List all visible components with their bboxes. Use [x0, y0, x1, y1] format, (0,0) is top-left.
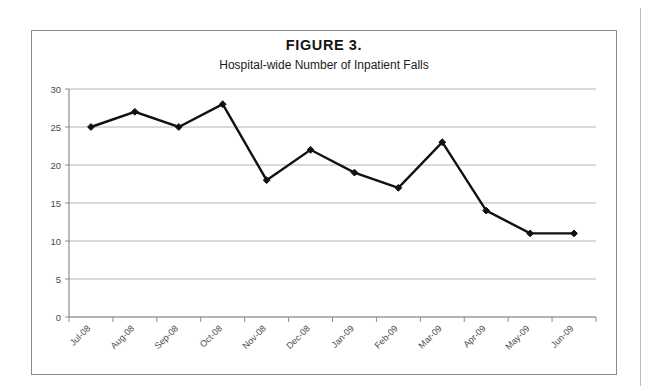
x-axis — [69, 317, 596, 322]
x-tick-label: Aug-08 — [109, 323, 137, 351]
y-axis: 051015202530 — [50, 84, 69, 323]
figure-container: FIGURE 3. Hospital-wide Number of Inpati… — [31, 30, 617, 375]
x-tick-label: Jun-09 — [549, 323, 576, 350]
series-line — [91, 104, 574, 233]
y-tick-label: 15 — [50, 198, 61, 209]
x-tick-label: May-09 — [503, 323, 531, 351]
x-tick-labels: Jul-08Aug-08Sep-08Oct-08Nov-08Dec-08Jan-… — [68, 323, 575, 351]
x-tick-label: Jul-08 — [68, 323, 92, 347]
data-point-marker — [131, 108, 138, 115]
gridlines-group — [69, 89, 596, 317]
x-tick-label: Feb-09 — [373, 323, 400, 350]
x-tick-label: Nov-08 — [240, 323, 268, 351]
line-chart-plot: 051015202530 Jul-08Aug-08Sep-08Oct-08Nov… — [32, 31, 616, 374]
page-canvas: FIGURE 3. Hospital-wide Number of Inpati… — [0, 0, 649, 391]
y-tick-label: 30 — [50, 84, 61, 95]
x-tick-label: Oct-08 — [198, 323, 224, 349]
x-tick-label: Mar-09 — [416, 323, 443, 350]
data-point-marker — [88, 124, 95, 131]
y-tick-label: 10 — [50, 236, 61, 247]
y-tick-label: 25 — [50, 122, 61, 133]
y-tick-label: 5 — [56, 274, 61, 285]
x-tick-label: Sep-08 — [153, 323, 181, 351]
page-margin-rule — [640, 8, 641, 386]
x-tick-label: Jan-09 — [329, 323, 356, 350]
y-tick-label: 0 — [56, 312, 61, 323]
data-point-marker — [571, 230, 578, 237]
y-tick-label: 20 — [50, 160, 61, 171]
falls-series — [91, 104, 574, 233]
x-tick-label: Dec-08 — [284, 323, 312, 351]
x-tick-label: Apr-09 — [461, 323, 487, 349]
